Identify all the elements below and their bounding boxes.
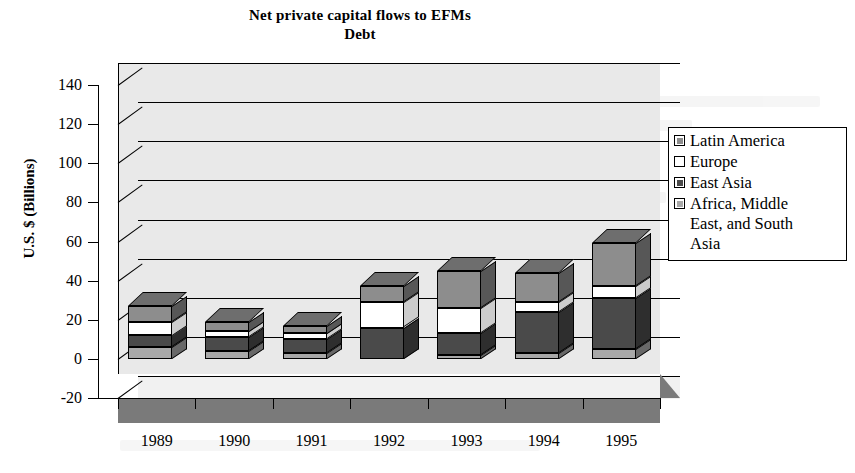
bar-segment[interactable] <box>437 308 481 333</box>
legend-item-label: Latin America <box>690 131 785 151</box>
bar-segment[interactable] <box>360 286 404 302</box>
bar-segment[interactable] <box>128 347 172 359</box>
bar-segment[interactable] <box>283 339 327 353</box>
chart-figure: Net private capital flows to EFMs Debt U… <box>0 0 855 473</box>
y-axis-tick-label: -20 <box>24 390 82 406</box>
y-axis-tick-label: 140 <box>24 77 82 93</box>
bar-segment[interactable] <box>283 333 327 339</box>
bar-column[interactable] <box>128 0 188 430</box>
bar-segment[interactable] <box>592 286 636 298</box>
plot-area: 140120100806040200-20 198919901991199219… <box>0 0 720 430</box>
bar-segment[interactable] <box>515 302 559 312</box>
bar-segment[interactable] <box>360 302 404 327</box>
legend-swatch-europe <box>674 156 685 167</box>
y-axis-tick-label: 60 <box>24 234 82 250</box>
bar-segment[interactable] <box>437 333 481 355</box>
bar-column[interactable] <box>205 0 265 430</box>
bar-segment[interactable] <box>205 322 249 332</box>
bar-column[interactable] <box>437 0 497 430</box>
bar-segment[interactable] <box>283 326 327 334</box>
x-axis-tick <box>660 398 661 409</box>
plot-wall-left-edge <box>118 63 119 374</box>
bar-segment[interactable] <box>592 298 636 349</box>
x-axis-tick <box>505 398 506 409</box>
legend-item[interactable]: East Asia <box>674 173 842 193</box>
bar-column[interactable] <box>283 0 343 430</box>
legend-item-label: East Asia <box>690 173 752 193</box>
bar-segment[interactable] <box>515 312 559 353</box>
y-axis-tick-label: 100 <box>24 155 82 171</box>
bar-segment[interactable] <box>283 353 327 359</box>
bar-segment[interactable] <box>437 355 481 359</box>
legend-item-label: Europe <box>690 152 738 172</box>
x-axis-tick <box>195 398 196 409</box>
y-axis-tick-label: 0 <box>24 351 82 367</box>
x-axis-tick-label: 1995 <box>576 432 666 450</box>
y-axis-tick-label: 80 <box>24 194 82 210</box>
y-axis-line <box>98 85 99 398</box>
bar-segment[interactable] <box>592 349 636 359</box>
bar-segment[interactable] <box>592 243 636 286</box>
x-axis-tick <box>428 398 429 409</box>
x-axis-tick <box>583 398 584 409</box>
x-axis-tick <box>273 398 274 409</box>
x-axis-tick <box>350 398 351 409</box>
bar-segment[interactable] <box>205 351 249 359</box>
bar-segment[interactable] <box>515 353 559 359</box>
y-axis-tick-label: 120 <box>24 116 82 132</box>
bar-column[interactable] <box>360 0 420 430</box>
legend-item-label: Africa, Middle East, and South Asia <box>690 194 793 254</box>
plot-floor-right-face <box>660 374 680 398</box>
bar-column[interactable] <box>592 0 652 430</box>
legend-swatch-latin-america <box>674 135 685 146</box>
bar-segment[interactable] <box>128 335 172 347</box>
legend-swatch-east-asia <box>674 177 685 188</box>
y-axis-tick-label: 20 <box>24 312 82 328</box>
chart-legend: Latin AmericaEuropeEast AsiaAfrica, Midd… <box>668 127 847 261</box>
x-axis-tick <box>118 398 119 409</box>
legend-swatch-africa-middle-east-south-asia <box>674 198 685 209</box>
bar-segment[interactable] <box>205 337 249 351</box>
bar-segment[interactable] <box>205 331 249 337</box>
legend-item[interactable]: Africa, Middle East, and South Asia <box>674 194 842 254</box>
bar-segment[interactable] <box>515 273 559 302</box>
bar-segment[interactable] <box>437 271 481 308</box>
bar-segment[interactable] <box>128 306 172 322</box>
bar-column[interactable] <box>515 0 575 430</box>
y-axis-tick-label: 40 <box>24 273 82 289</box>
legend-item[interactable]: Europe <box>674 152 842 172</box>
legend-item[interactable]: Latin America <box>674 131 842 151</box>
bar-segment-side <box>636 288 651 349</box>
bar-segment[interactable] <box>128 322 172 336</box>
bar-segment[interactable] <box>360 328 404 359</box>
